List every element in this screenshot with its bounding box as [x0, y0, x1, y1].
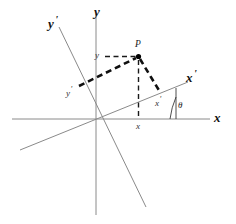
rotation-axes-figure: y' y x' x P y y' x x' θ [0, 0, 236, 224]
angle-arc [170, 97, 176, 119]
y-prime-axis-line [59, 27, 146, 207]
y-axis-label: y [94, 5, 100, 18]
x-prime-axis-line [20, 82, 188, 150]
y-prime-axis-label-text: y [48, 16, 54, 31]
point-p-marker [136, 54, 141, 59]
x-coordinate-label: x [136, 122, 140, 131]
theta-angle-label: θ [178, 101, 182, 110]
x-prime-axis-label: x' [186, 68, 197, 84]
y-prime-coordinate-text: y [66, 88, 70, 98]
y-prime-axis-label: y' [48, 14, 58, 30]
x-prime-projection-line [140, 59, 160, 92]
x-prime-coordinate-text: x [155, 98, 159, 108]
x-prime-coordinate-label: x' [155, 96, 161, 108]
y-coordinate-label: y [95, 51, 99, 60]
x-prime-coordinate-prime-mark: ' [160, 95, 162, 104]
x-prime-axis-label-text: x [186, 70, 193, 85]
y-prime-projection-line [79, 58, 136, 86]
y-prime-axis-prime-mark: ' [55, 13, 58, 25]
x-prime-axis-prime-mark: ' [194, 67, 197, 79]
x-axis-label: x [214, 111, 221, 124]
figure-canvas [0, 0, 236, 224]
y-prime-coordinate-prime-mark: ' [71, 85, 73, 94]
point-p-label: P [135, 40, 141, 50]
y-prime-coordinate-label: y' [66, 86, 72, 98]
